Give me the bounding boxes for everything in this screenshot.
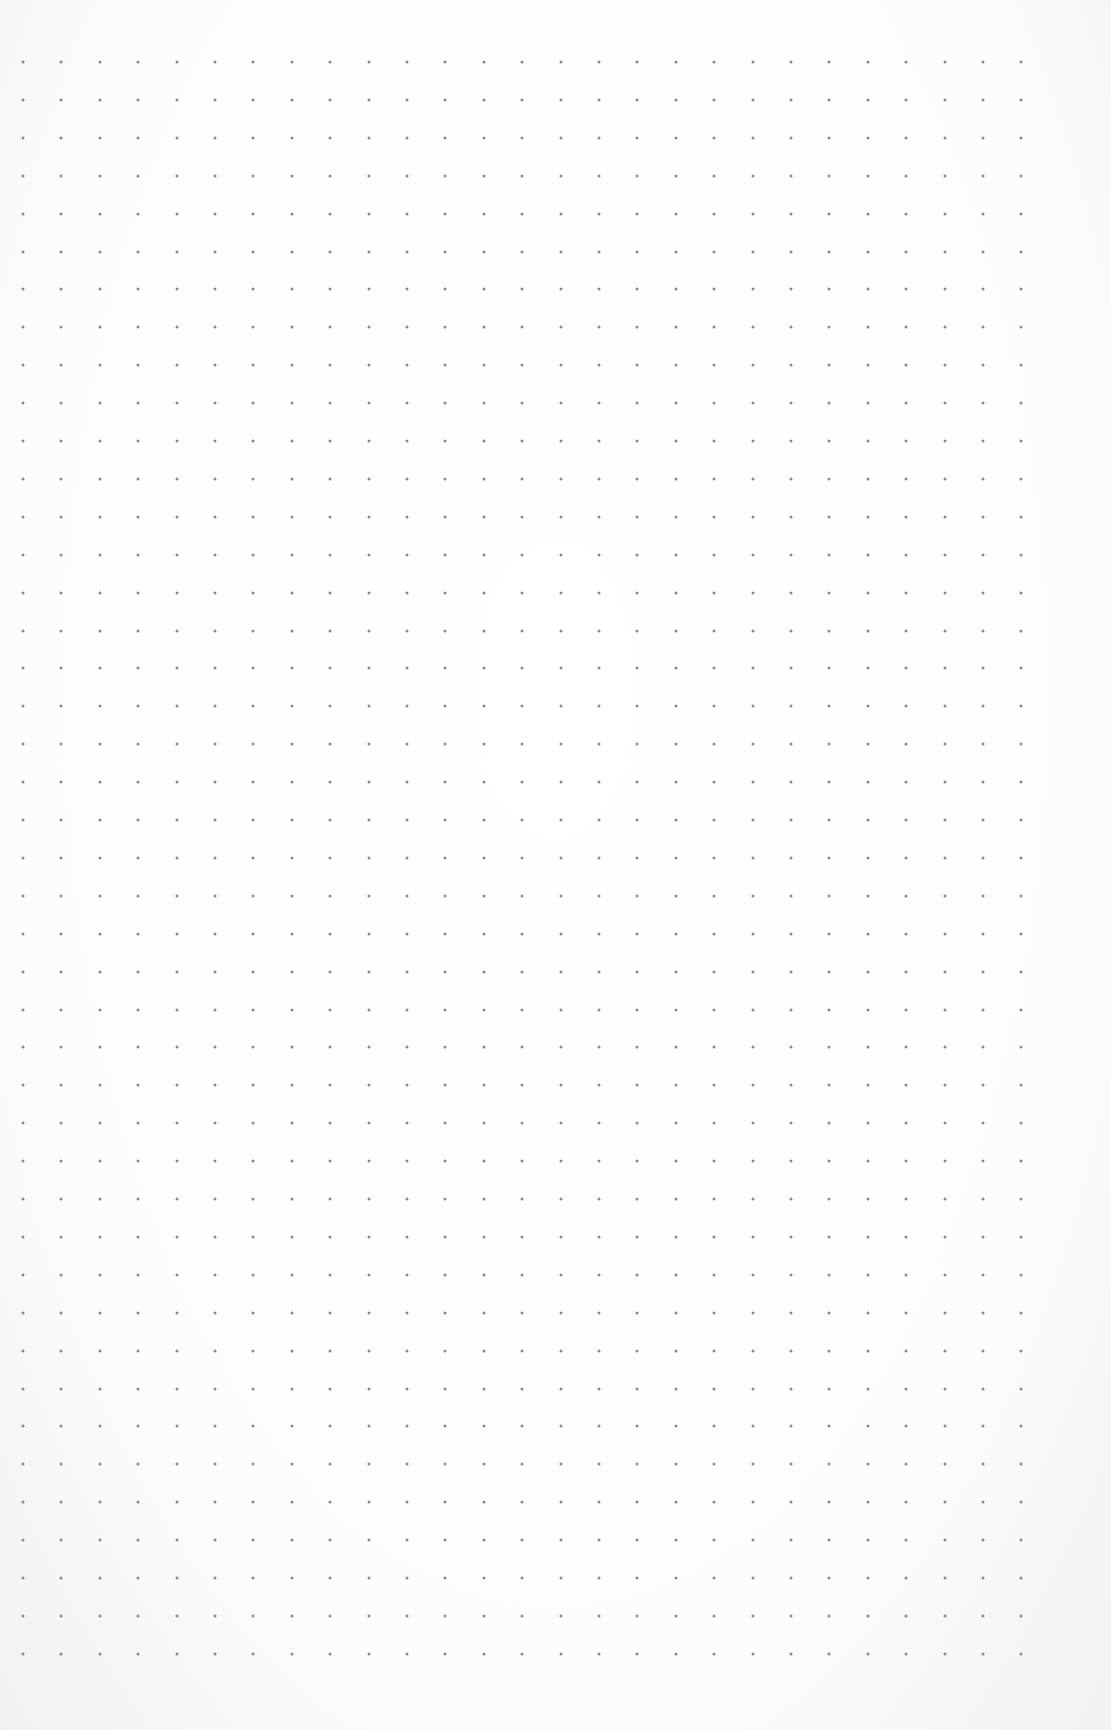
grid-dot [559,553,562,556]
grid-dot [252,743,255,746]
grid-dot [252,667,255,670]
grid-dot [943,402,946,405]
grid-dot [367,1122,370,1125]
grid-dot [559,932,562,935]
grid-dot [482,440,485,443]
grid-dot [406,781,409,784]
grid-dot [175,970,178,973]
grid-dot [982,1122,985,1125]
grid-dot [905,1122,908,1125]
grid-dot [828,61,831,64]
grid-dot [636,743,639,746]
grid-dot [175,1539,178,1542]
grid-dot [636,212,639,215]
grid-dot [905,1539,908,1542]
grid-dot [406,250,409,253]
grid-dot [790,250,793,253]
grid-dot [751,477,754,480]
grid-dot [866,1425,869,1428]
grid-dot [1020,212,1023,215]
grid-dot [214,856,217,859]
grid-dot [329,932,332,935]
grid-dot [751,1577,754,1580]
grid-dot [866,894,869,897]
grid-dot [60,326,63,329]
grid-dot [290,932,293,935]
grid-dot [60,212,63,215]
grid-dot [790,856,793,859]
grid-dot [329,1122,332,1125]
grid-dot [790,1425,793,1428]
grid-dot [214,819,217,822]
grid-dot [943,477,946,480]
grid-dot [828,212,831,215]
grid-dot [329,1311,332,1314]
grid-dot [60,250,63,253]
grid-dot [751,440,754,443]
grid-dot [751,591,754,594]
grid-dot [866,326,869,329]
grid-dot [252,1349,255,1352]
grid-dot [175,364,178,367]
grid-dot [329,1349,332,1352]
grid-dot [329,819,332,822]
grid-dot [137,1235,140,1238]
grid-dot [828,629,831,632]
grid-dot [713,477,716,480]
grid-dot [521,515,524,518]
grid-dot [674,1122,677,1125]
grid-dot [790,1046,793,1049]
grid-dot [943,364,946,367]
grid-dot [60,1235,63,1238]
grid-dot [137,743,140,746]
grid-dot [444,1084,447,1087]
grid-dot [98,781,101,784]
grid-dot [482,326,485,329]
grid-dot [22,553,25,556]
grid-dot [790,781,793,784]
grid-dot [137,61,140,64]
grid-dot [1020,1311,1023,1314]
grid-dot [252,402,255,405]
grid-dot [636,1463,639,1466]
grid-dot [1020,98,1023,101]
grid-dot [60,364,63,367]
grid-dot [713,1539,716,1542]
grid-dot [674,1463,677,1466]
grid-dot [252,288,255,291]
grid-dot [905,1273,908,1276]
grid-dot [636,819,639,822]
grid-dot [674,515,677,518]
grid-dot [636,1387,639,1390]
grid-dot [22,1160,25,1163]
grid-dot [329,1084,332,1087]
grid-dot [598,1577,601,1580]
grid-dot [214,1539,217,1542]
grid-dot [790,1273,793,1276]
grid-dot [598,402,601,405]
grid-dot [751,1539,754,1542]
grid-dot [60,1463,63,1466]
grid-dot [828,1425,831,1428]
grid-dot [866,1160,869,1163]
grid-dot [751,705,754,708]
grid-dot [636,1614,639,1617]
grid-dot [866,1235,869,1238]
grid-dot [175,667,178,670]
grid-dot [290,1349,293,1352]
grid-dot [60,1501,63,1504]
grid-dot [290,970,293,973]
grid-dot [790,629,793,632]
grid-dot [751,629,754,632]
grid-dot [329,364,332,367]
grid-dot [598,1084,601,1087]
grid-dot [98,98,101,101]
grid-dot [598,1122,601,1125]
grid-dot [982,61,985,64]
grid-dot [598,212,601,215]
grid-dot [482,705,485,708]
grid-dot [866,364,869,367]
grid-dot [674,477,677,480]
grid-dot [290,553,293,556]
grid-dot [828,1122,831,1125]
